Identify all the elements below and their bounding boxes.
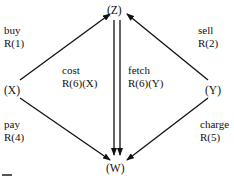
edge-fetch-name: fetch bbox=[128, 64, 163, 77]
edge-sell-name: sell bbox=[198, 24, 218, 37]
edge-fetch-label: fetch R(6)(Y) bbox=[128, 64, 163, 90]
edge-buy-rule: R(1) bbox=[4, 37, 24, 50]
edge-charge-label: charge R(5) bbox=[200, 118, 229, 144]
edge-fetch-rule: R(6)(Y) bbox=[128, 77, 163, 90]
node-z: (Z) bbox=[107, 4, 122, 17]
edge-charge-rule: R(5) bbox=[200, 131, 229, 144]
edge-sell-label: sell R(2) bbox=[198, 24, 218, 50]
edge-charge-arrow bbox=[127, 98, 208, 160]
edge-cost-label: cost R(6)(X) bbox=[62, 64, 97, 90]
edge-pay-name: pay bbox=[4, 118, 24, 131]
edge-cost-rule: R(6)(X) bbox=[62, 77, 97, 90]
node-w: (W) bbox=[106, 162, 125, 175]
edge-pay-rule: R(4) bbox=[4, 131, 24, 144]
edge-buy-name: buy bbox=[4, 24, 24, 37]
edge-buy-label: buy R(1) bbox=[4, 24, 24, 50]
edge-pay-label: pay R(4) bbox=[4, 118, 24, 144]
edge-pay-arrow bbox=[20, 98, 110, 160]
edge-cost-name: cost bbox=[62, 64, 97, 77]
node-x: (X) bbox=[4, 84, 20, 97]
edge-sell-rule: R(2) bbox=[198, 37, 218, 50]
edge-charge-name: charge bbox=[200, 118, 229, 131]
caption-fragment bbox=[2, 174, 12, 176]
node-y: (Y) bbox=[205, 84, 221, 97]
